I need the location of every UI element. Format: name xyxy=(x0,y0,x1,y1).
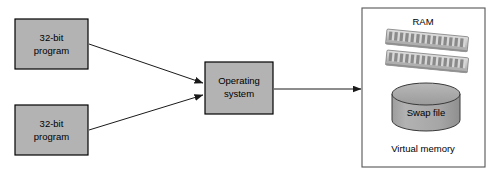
swap-file-cylinder: Swap file xyxy=(392,83,460,131)
program-box-1: 32-bit program xyxy=(15,19,88,69)
diagram-canvas: 32-bit program 32-bit program Operating … xyxy=(0,0,500,177)
arrow-program2-to-os xyxy=(89,95,203,130)
program-box-2: 32-bit program xyxy=(15,105,88,155)
operating-system-label-line1: Operating xyxy=(218,75,260,86)
swap-file-label: Swap file xyxy=(407,107,446,118)
program-box-2-label-line1: 32-bit xyxy=(40,118,64,129)
program-box-1-rect xyxy=(15,19,88,69)
program-box-1-label-line1: 32-bit xyxy=(40,32,64,43)
operating-system-box: Operating system xyxy=(205,62,273,114)
ram-label: RAM xyxy=(412,16,433,27)
virtual-memory-panel: RAM Swap file Virtual memory xyxy=(362,8,485,167)
program-box-2-label-line2: program xyxy=(34,131,69,142)
virtual-memory-caption: Virtual memory xyxy=(391,143,455,154)
program-box-1-label-line2: program xyxy=(34,45,69,56)
virtual-memory-diagram: 32-bit program 32-bit program Operating … xyxy=(0,0,500,177)
program-box-2-rect xyxy=(15,105,88,155)
operating-system-label-line2: system xyxy=(224,88,254,99)
arrow-program1-to-os xyxy=(89,44,203,83)
swap-file-cylinder-top xyxy=(392,83,460,105)
